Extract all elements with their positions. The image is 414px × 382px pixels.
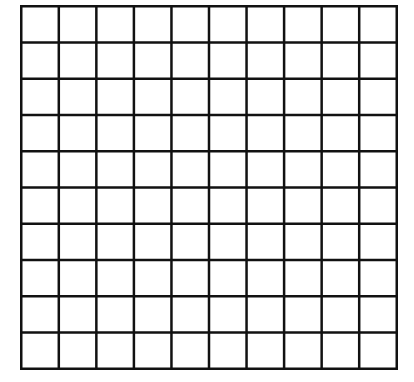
grid-lines: [20, 5, 398, 370]
square-grid: [20, 5, 398, 370]
